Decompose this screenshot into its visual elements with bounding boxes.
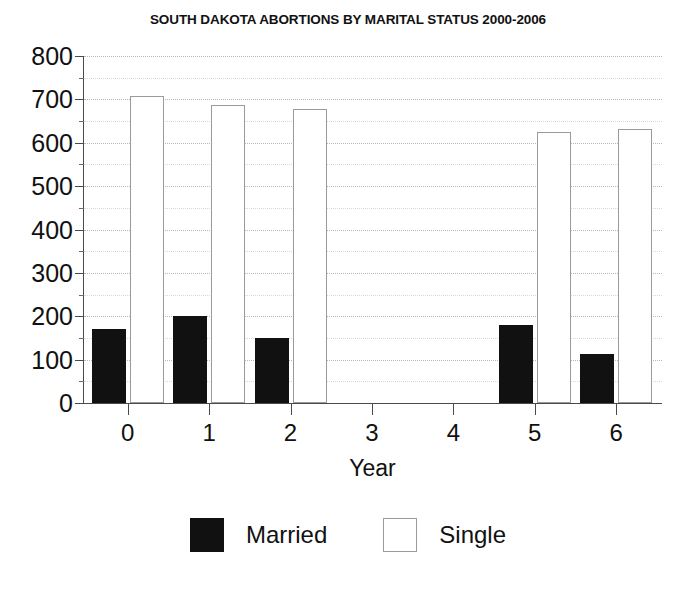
bar-single bbox=[130, 96, 164, 403]
y-axis-label: 300 bbox=[31, 260, 73, 285]
y-gridline bbox=[84, 99, 662, 100]
y-axis-tick-minor bbox=[79, 251, 84, 252]
bar-chart-figure: SOUTH DAKOTA ABORTIONS BY MARITAL STATUS… bbox=[0, 0, 696, 610]
y-axis-label: 100 bbox=[31, 347, 73, 372]
y-axis-tick bbox=[75, 143, 84, 144]
bar-single bbox=[211, 105, 245, 403]
y-gridline-minor bbox=[84, 251, 662, 252]
y-axis-tick bbox=[75, 403, 84, 404]
y-gridline-minor bbox=[84, 121, 662, 122]
x-axis-label: 4 bbox=[447, 421, 460, 445]
y-axis-tick-minor bbox=[79, 295, 84, 296]
x-axis-tick bbox=[209, 403, 210, 415]
x-axis-label: 2 bbox=[284, 421, 297, 445]
y-axis-label: 500 bbox=[31, 174, 73, 199]
chart-title: SOUTH DAKOTA ABORTIONS BY MARITAL STATUS… bbox=[0, 12, 696, 27]
y-axis-tick bbox=[75, 316, 84, 317]
x-axis-label: 3 bbox=[365, 421, 378, 445]
y-axis-label: 400 bbox=[31, 217, 73, 242]
x-axis-label: 1 bbox=[202, 421, 215, 445]
y-gridline bbox=[84, 360, 662, 361]
y-gridline-minor bbox=[84, 78, 662, 79]
x-axis-label: 0 bbox=[121, 421, 134, 445]
y-axis-tick bbox=[75, 56, 84, 57]
y-gridline-minor bbox=[84, 338, 662, 339]
y-axis-tick bbox=[75, 186, 84, 187]
x-axis-tick bbox=[291, 403, 292, 415]
legend-swatch-married-icon bbox=[190, 518, 224, 552]
y-gridline bbox=[84, 230, 662, 231]
y-axis-tick-minor bbox=[79, 208, 84, 209]
x-axis-title: Year bbox=[83, 455, 662, 482]
y-gridline bbox=[84, 316, 662, 317]
x-axis-tick bbox=[128, 403, 129, 415]
legend-swatch-single-icon bbox=[383, 518, 417, 552]
y-axis-tick-minor bbox=[79, 381, 84, 382]
x-axis-tick bbox=[535, 403, 536, 415]
y-gridline bbox=[84, 143, 662, 144]
legend-label-married: Married bbox=[246, 523, 327, 547]
y-gridline-minor bbox=[84, 295, 662, 296]
x-axis-tick bbox=[616, 403, 617, 415]
y-axis-tick-minor bbox=[79, 78, 84, 79]
x-axis-tick bbox=[372, 403, 373, 415]
x-axis-tick bbox=[453, 403, 454, 415]
y-gridline-minor bbox=[84, 381, 662, 382]
legend-entry-married: Married bbox=[190, 518, 327, 552]
bar-married bbox=[255, 338, 289, 403]
bar-married bbox=[173, 316, 207, 403]
y-axis-tick bbox=[75, 360, 84, 361]
bar-single bbox=[537, 132, 571, 403]
y-axis-label: 700 bbox=[31, 87, 73, 112]
plot-area: 01002003004005006007008000123456 bbox=[83, 56, 662, 404]
x-axis-label: 5 bbox=[528, 421, 541, 445]
y-axis-tick bbox=[75, 99, 84, 100]
y-gridline bbox=[84, 273, 662, 274]
y-gridline-minor bbox=[84, 208, 662, 209]
y-axis-tick-minor bbox=[79, 121, 84, 122]
y-gridline-minor bbox=[84, 164, 662, 165]
chart-legend: Married Single bbox=[0, 518, 696, 552]
bar-married bbox=[499, 325, 533, 403]
y-gridline bbox=[84, 186, 662, 187]
legend-label-single: Single bbox=[439, 523, 506, 547]
bar-single bbox=[293, 109, 327, 403]
y-axis-tick-minor bbox=[79, 164, 84, 165]
legend-entry-single: Single bbox=[383, 518, 506, 552]
y-axis-label: 800 bbox=[31, 44, 73, 69]
x-axis-label: 6 bbox=[609, 421, 622, 445]
bar-married bbox=[580, 354, 614, 403]
y-axis-label: 200 bbox=[31, 304, 73, 329]
y-gridline bbox=[84, 56, 662, 57]
y-axis-label: 0 bbox=[59, 391, 73, 416]
y-axis-tick bbox=[75, 273, 84, 274]
y-axis-tick-minor bbox=[79, 338, 84, 339]
y-axis-label: 600 bbox=[31, 130, 73, 155]
y-axis-tick bbox=[75, 230, 84, 231]
bar-married bbox=[92, 329, 126, 403]
bar-single bbox=[618, 129, 652, 403]
